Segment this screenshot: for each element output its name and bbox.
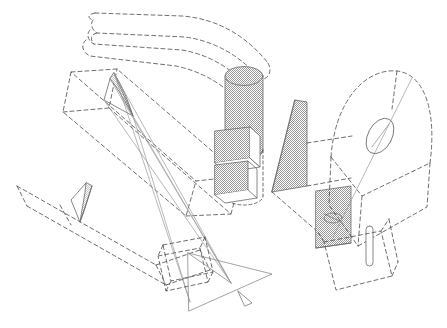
mid-blade-panel xyxy=(272,100,307,192)
pin-cylinder xyxy=(366,226,373,266)
dome-lens xyxy=(360,114,399,159)
lower-left-beam xyxy=(17,186,210,285)
ray-triangle xyxy=(188,253,272,311)
diagram-canvas xyxy=(0,0,447,328)
stacked-panels xyxy=(215,127,260,203)
ray-arrowhead xyxy=(238,291,252,306)
lower-left-lens xyxy=(71,183,92,222)
top-lens xyxy=(104,73,133,116)
lower-right-rhombus xyxy=(314,186,350,249)
technical-diagram xyxy=(0,0,447,328)
